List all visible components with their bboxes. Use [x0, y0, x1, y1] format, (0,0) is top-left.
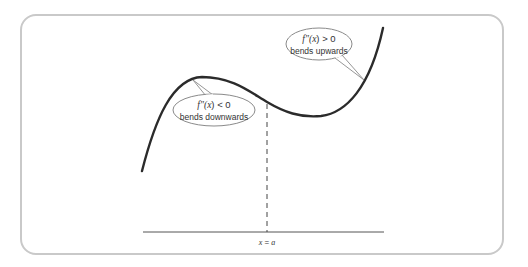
callout-expr-concave-up: f″(x) > 0 [302, 33, 335, 45]
axis-label-x-equals-a: x = a [258, 238, 276, 247]
concavity-diagram: f″(x) < 0 bends downwards f″(x) > 0 bend… [0, 0, 528, 267]
callout-text-concave-down: bends downwards [180, 112, 249, 122]
callout-pointer-concave-up [335, 55, 364, 80]
callout-expr-concave-down: f″(x) < 0 [197, 99, 230, 111]
callout-text-concave-up: bends upwards [290, 46, 348, 56]
